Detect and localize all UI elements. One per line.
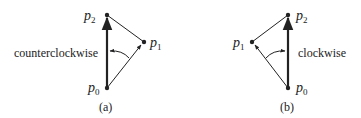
edge-p1-p2 [252,15,288,42]
rotation-arc [266,51,285,58]
label-p1: p1 [149,35,162,52]
label-p0: p0 [87,80,100,97]
rotation-arc [110,51,129,58]
vector-p0-p1 [107,45,141,88]
direction-label: counterclockwise [14,46,98,60]
point-p0 [286,86,290,90]
point-p1 [142,40,146,44]
point-p1 [250,40,254,44]
point-p2 [286,13,290,17]
vector-p0-p1 [255,45,288,88]
caption: (b) [280,100,294,114]
diagram-a: p2 p1 p0 counterclockwise (a) [14,8,162,114]
diagram-b: p2 p1 p0 clockwise (b) [232,8,346,114]
label-p2: p2 [295,8,308,25]
label-p0: p0 [295,80,308,97]
label-p1: p1 [232,35,245,52]
point-p0 [105,86,109,90]
edge-p1-p2 [107,15,144,42]
caption: (a) [99,100,112,114]
point-p2 [105,13,109,17]
direction-label: clockwise [298,46,346,60]
label-p2: p2 [83,8,96,25]
